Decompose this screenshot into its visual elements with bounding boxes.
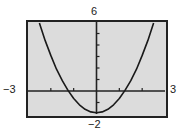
calculator-graph-screen [0,0,181,131]
